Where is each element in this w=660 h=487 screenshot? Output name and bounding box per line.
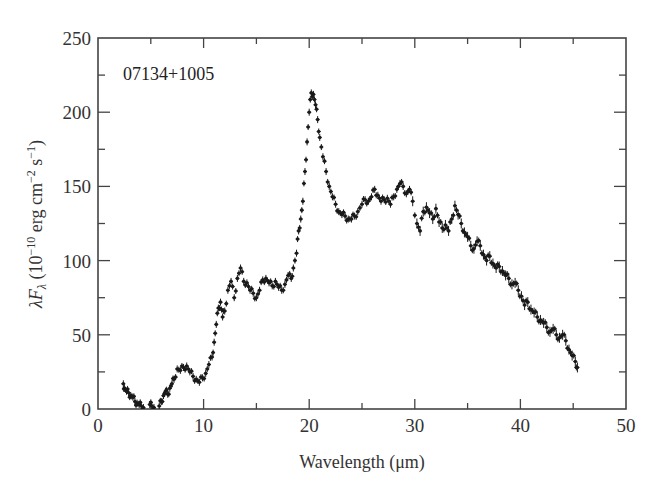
y-tick-label: 200 bbox=[63, 102, 92, 123]
axis-ticks bbox=[98, 38, 626, 409]
y-tick-labels: 050100150200250 bbox=[63, 28, 92, 420]
data-series bbox=[121, 89, 579, 412]
y-tick-label: 150 bbox=[63, 176, 92, 197]
x-tick-label: 20 bbox=[300, 415, 319, 436]
x-tick-label: 50 bbox=[617, 415, 636, 436]
y-tick-label: 100 bbox=[63, 251, 92, 272]
y-axis-label: λFλ (10−10 erg cm−2 s−1) bbox=[24, 140, 49, 309]
x-axis-label: Wavelength (μm) bbox=[299, 452, 425, 473]
x-tick-label: 40 bbox=[511, 415, 530, 436]
svg-text:λFλ (10−10 erg cm−2 s−1): λFλ (10−10 erg cm−2 s−1) bbox=[24, 140, 49, 309]
object-label: 07134+1005 bbox=[123, 64, 214, 84]
chart: 01020304050 050100150200250 07134+1005 W… bbox=[0, 0, 660, 487]
y-tick-label: 0 bbox=[82, 399, 92, 420]
x-tick-label: 30 bbox=[405, 415, 424, 436]
y-tick-label: 250 bbox=[63, 28, 92, 49]
x-tick-label: 0 bbox=[93, 415, 103, 436]
x-tick-label: 10 bbox=[194, 415, 213, 436]
x-tick-labels: 01020304050 bbox=[93, 415, 635, 436]
y-tick-label: 50 bbox=[72, 325, 91, 346]
plot-frame bbox=[98, 38, 626, 409]
